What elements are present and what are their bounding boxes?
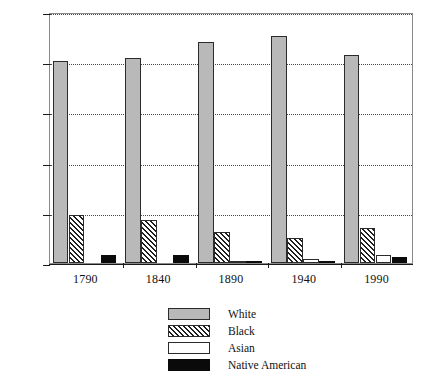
group-separator	[341, 263, 342, 268]
legend-label: Asian	[228, 342, 255, 354]
legend-item: Asian	[168, 339, 348, 356]
bar-asian	[376, 255, 392, 263]
bar-native-american	[319, 261, 335, 263]
x-axis-tick-label: 1990	[340, 272, 413, 287]
bar-black	[287, 238, 303, 263]
bar-white	[344, 55, 360, 263]
bar-native-american	[101, 255, 117, 263]
plot-area	[49, 13, 413, 264]
legend-swatch-native-american	[168, 359, 210, 371]
bar-black	[360, 228, 376, 263]
bar-asian	[230, 261, 246, 263]
x-axis-tick-label: 1940	[267, 272, 340, 287]
group-separator	[268, 263, 269, 268]
gridline	[50, 14, 412, 15]
legend-label: Native American	[228, 359, 306, 371]
bar-black	[141, 220, 157, 263]
legend-item: Native American	[168, 356, 348, 373]
bar-white	[271, 36, 287, 263]
legend-item: Black	[168, 322, 348, 339]
legend-item: White	[168, 305, 348, 322]
y-axis-tick	[43, 14, 50, 15]
chart-figure: Percent 020%40%60%80%100% 17901840189019…	[0, 0, 421, 384]
group-separator	[123, 263, 124, 268]
bar-native-american	[392, 257, 408, 263]
chart-legend: WhiteBlackAsianNative American	[168, 305, 348, 373]
bar-black	[214, 232, 230, 263]
legend-swatch-black	[168, 325, 210, 337]
x-axis-tick-label: 1890	[195, 272, 268, 287]
legend-label: Black	[228, 325, 255, 337]
bar-asian	[303, 259, 319, 263]
bar-white	[125, 58, 141, 263]
y-axis-tick	[43, 114, 50, 115]
x-axis-tick-label: 1840	[122, 272, 195, 287]
bar-black	[69, 215, 85, 263]
legend-swatch-white	[168, 308, 210, 320]
bar-native-american	[246, 261, 262, 264]
y-axis-tick	[43, 265, 50, 266]
legend-swatch-asian	[168, 342, 210, 354]
legend-label: White	[228, 308, 256, 320]
y-axis-tick	[43, 215, 50, 216]
y-axis-tick	[43, 165, 50, 166]
group-separator	[196, 263, 197, 268]
bar-native-american	[173, 255, 189, 263]
x-axis-tick-label: 1790	[49, 272, 122, 287]
bar-white	[53, 61, 69, 263]
bar-white	[198, 42, 214, 263]
y-axis-tick	[43, 64, 50, 65]
